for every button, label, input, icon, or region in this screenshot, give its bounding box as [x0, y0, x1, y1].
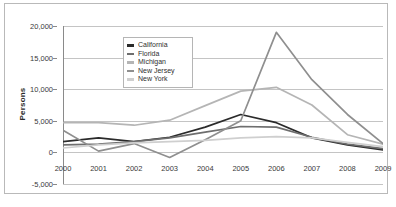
legend-swatch-icon [127, 44, 134, 47]
legend-label: California [138, 41, 168, 50]
x-axis-tick-label: 2006 [268, 164, 285, 173]
y-axis-tick-label: -5,000 [19, 180, 53, 189]
x-axis-tick-label: 2004 [197, 164, 214, 173]
y-axis-tick-mark [53, 152, 57, 153]
y-axis-tick-label: 20,000 [19, 22, 53, 31]
y-axis-tick-labels: 20,00015,00010,0005,0000-5,000 [5, 26, 53, 184]
plot-area [63, 26, 383, 184]
x-axis-tick-label: 2001 [90, 164, 107, 173]
chart-legend: CaliforniaFloridaMichiganNew JerseyNew Y… [123, 37, 193, 88]
legend-item: Michigan [127, 58, 188, 67]
legend-swatch-icon [127, 61, 134, 64]
gridline [63, 184, 383, 185]
legend-item: New York [127, 75, 188, 84]
y-axis-tick-label: 5,000 [19, 116, 53, 125]
series-line [63, 87, 383, 144]
y-axis-tick-mark [53, 58, 57, 59]
x-axis-tick-label: 2007 [304, 164, 321, 173]
series-lines [63, 26, 383, 184]
legend-item: New Jersey [127, 67, 188, 76]
legend-label: New York [138, 75, 168, 84]
x-axis-tick-label: 2003 [161, 164, 178, 173]
legend-label: Michigan [138, 58, 166, 67]
x-axis-tick-label: 2002 [126, 164, 143, 173]
y-axis-tick-mark [53, 184, 57, 185]
y-axis-tick-mark [53, 26, 57, 27]
x-axis-tick-label: 2005 [232, 164, 249, 173]
legend-swatch-icon [127, 70, 134, 73]
y-axis-tick-label: 10,000 [19, 85, 53, 94]
legend-label: New Jersey [138, 67, 175, 76]
y-axis-tick-label: 0 [19, 148, 53, 157]
legend-swatch-icon [127, 53, 134, 56]
legend-swatch-icon [127, 78, 134, 81]
x-axis-tick-label: 2000 [55, 164, 72, 173]
legend-item: California [127, 41, 188, 50]
chart-frame: Persons 20,00015,00010,0005,0000-5,000 2… [4, 3, 388, 194]
x-axis-tick-label: 2009 [375, 164, 392, 173]
legend-item: Florida [127, 50, 188, 59]
y-axis-tick-mark [53, 121, 57, 122]
legend-label: Florida [138, 50, 159, 59]
y-axis-tick-label: 15,000 [19, 53, 53, 62]
y-axis-tick-mark [53, 89, 57, 90]
x-axis-tick-label: 2008 [339, 164, 356, 173]
